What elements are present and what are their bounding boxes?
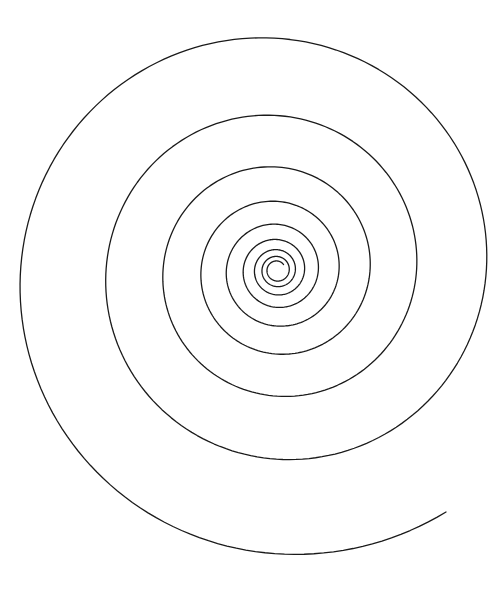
spiral-canvas [0,0,504,589]
